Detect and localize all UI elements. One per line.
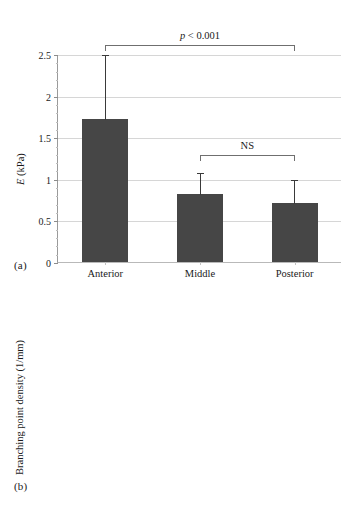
y-axis-minor-tick	[56, 205, 59, 206]
y-axis-minor-tick	[56, 238, 59, 239]
y-axis-minor-tick	[56, 88, 59, 89]
y-axis-tick	[54, 263, 58, 264]
y-axis-minor-tick	[56, 130, 59, 131]
gridline	[58, 55, 341, 56]
y-axis-minor-tick	[56, 155, 59, 156]
plot-area-a: 00.511.522.5AnteriorMiddlePosteriorp < 0…	[57, 55, 341, 263]
y-axis-minor-tick	[56, 147, 59, 148]
y-axis-tick	[54, 180, 58, 181]
y-axis-minor-tick	[56, 122, 59, 123]
gridline	[58, 97, 341, 98]
x-axis-tick	[295, 262, 296, 265]
y-axis-label-a-symbol: E	[15, 179, 26, 185]
bar-posterior	[272, 203, 318, 262]
panel-label-a: (a)	[14, 259, 27, 271]
chart-panel-a: (a) E (kPa) 00.511.522.5AnteriorMiddlePo…	[0, 0, 359, 283]
y-axis-minor-tick	[56, 246, 59, 247]
panel-label-b: (b)	[14, 480, 27, 492]
error-bar-cap-anterior	[102, 55, 109, 56]
significance-bracket-2	[200, 155, 295, 161]
y-axis-minor-tick	[56, 72, 59, 73]
y-axis-tick-label: 2.5	[39, 50, 52, 61]
y-axis-minor-tick	[56, 255, 59, 256]
bar-middle	[177, 194, 223, 262]
y-axis-minor-tick	[56, 213, 59, 214]
y-axis-minor-tick	[56, 105, 59, 106]
y-axis-minor-tick	[56, 230, 59, 231]
y-axis-minor-tick	[56, 63, 59, 64]
significance-bracket-1	[105, 45, 294, 51]
y-axis-minor-tick	[56, 80, 59, 81]
x-axis-label-posterior: Posterior	[276, 268, 314, 279]
y-axis-minor-tick	[56, 188, 59, 189]
y-axis-tick-label: 1.5	[39, 133, 52, 144]
error-bar-anterior	[105, 55, 106, 120]
chart-panel-b: (b) Branching point density (1/mm) 05101…	[0, 283, 359, 518]
p-value-text: < 0.001	[185, 30, 220, 41]
y-axis-tick-label: 0.5	[39, 216, 52, 227]
y-axis-label-b: Branching point density (1/mm)	[14, 340, 25, 475]
y-axis-minor-tick	[56, 113, 59, 114]
y-axis-tick	[54, 138, 58, 139]
error-bar-cap-posterior	[291, 180, 298, 181]
figure-container: (a) E (kPa) 00.511.522.5AnteriorMiddlePo…	[0, 0, 359, 518]
y-axis-tick	[54, 221, 58, 222]
error-bar-cap-middle	[197, 173, 204, 174]
y-axis-minor-tick	[56, 171, 59, 172]
y-axis-label-a-units: (kPa)	[15, 153, 26, 178]
x-axis-tick	[200, 262, 201, 265]
y-axis-tick-label: 2	[46, 91, 51, 102]
y-axis-tick-label: 1	[46, 174, 51, 185]
y-axis-minor-tick	[56, 163, 59, 164]
x-axis-tick	[105, 262, 106, 265]
y-axis-tick-label: 0	[46, 258, 51, 269]
bar-anterior	[82, 119, 128, 262]
error-bar-middle	[200, 173, 201, 195]
y-axis-minor-tick	[56, 196, 59, 197]
y-axis-tick	[54, 97, 58, 98]
x-axis-label-anterior: Anterior	[88, 268, 124, 279]
x-axis-label-middle: Middle	[185, 268, 215, 279]
y-axis-label-a: E (kPa)	[15, 153, 26, 185]
y-axis-tick	[54, 55, 58, 56]
error-bar-posterior	[294, 180, 295, 204]
significance-label-2: NS	[241, 140, 254, 151]
significance-label-1: p < 0.001	[180, 30, 220, 41]
